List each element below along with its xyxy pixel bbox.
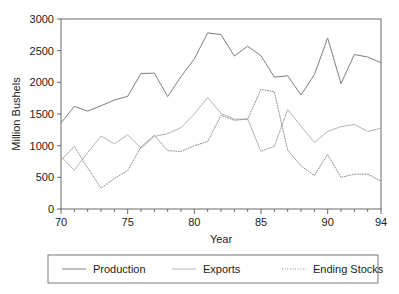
y-tick-label: 0: [48, 203, 54, 215]
x-tick-label: 85: [255, 216, 267, 228]
y-tick-label: 1500: [30, 108, 54, 120]
legend-label-ending-stocks: Ending Stocks: [313, 263, 384, 275]
x-tick-label: 90: [322, 216, 334, 228]
legend-label-exports: Exports: [203, 263, 241, 275]
legend-label-production: Production: [93, 263, 146, 275]
plot-frame: [61, 19, 381, 209]
series-line-ending-stocks: [61, 89, 381, 188]
line-chart: 050010001500200025003000707580859094Year…: [0, 0, 399, 294]
y-tick-label: 2500: [30, 45, 54, 57]
y-tick-label: 1000: [30, 140, 54, 152]
x-axis-title: Year: [210, 233, 233, 245]
y-tick-label: 3000: [30, 13, 54, 25]
series-line-exports: [61, 98, 381, 171]
series-line-production: [61, 33, 381, 123]
y-tick-label: 500: [36, 171, 54, 183]
x-tick-label: 70: [55, 216, 67, 228]
x-tick-label: 80: [188, 216, 200, 228]
x-tick-label: 75: [122, 216, 134, 228]
x-tick-label: 94: [375, 216, 387, 228]
chart-figure: 050010001500200025003000707580859094Year…: [0, 0, 399, 294]
y-tick-label: 2000: [30, 76, 54, 88]
y-axis-title: Million Bushels: [10, 77, 22, 151]
